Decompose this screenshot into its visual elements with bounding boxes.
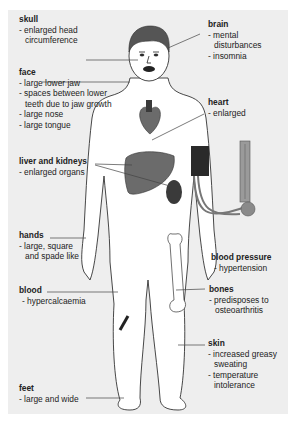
label-skin-title: skin <box>208 338 277 349</box>
label-heart-title: heart <box>208 97 246 108</box>
label-hands-item: and spade like <box>19 251 79 262</box>
kidney-organ <box>166 180 182 204</box>
label-bones: bones - predisposes to osteoarthritis <box>209 284 269 316</box>
label-hands-title: hands <box>19 230 79 241</box>
label-skin-item: - increased greasy <box>208 349 277 360</box>
label-blood-pressure-item: - hypertension <box>211 263 272 274</box>
label-face-item: - large tongue <box>19 120 112 131</box>
label-feet-item: - large and wide <box>19 394 79 405</box>
label-skin: skin - increased greasy sweating - tempe… <box>208 338 277 391</box>
label-skin-item: sweating <box>208 359 277 370</box>
label-face-item: - spaces between lower <box>19 88 112 99</box>
label-brain-item: - insomnia <box>208 51 262 62</box>
label-feet-title: feet <box>19 383 79 394</box>
label-face-item: - large nose <box>19 109 112 120</box>
label-liver-kidneys-item: - enlarged organs <box>19 167 87 178</box>
label-skin-item: - temperature <box>208 370 277 381</box>
label-brain-item: - mental <box>208 30 262 41</box>
label-skull-item: - enlarged head <box>19 25 78 36</box>
bp-bulb <box>241 202 255 216</box>
label-face: face - large lower jaw - spaces between … <box>19 67 112 131</box>
label-bones-item: osteoarthritis <box>209 305 269 316</box>
label-hands-item: - large, square <box>19 241 79 252</box>
label-brain: brain - mental disturbances - insomnia <box>208 19 262 61</box>
label-skull-item: circumference <box>19 35 78 46</box>
label-face-item: teeth due to jaw growth <box>19 99 112 110</box>
label-liver-kidneys: liver and kidneys - enlarged organs <box>19 156 87 177</box>
label-feet: feet - large and wide <box>19 383 79 404</box>
label-liver-kidneys-title: liver and kidneys <box>19 156 87 167</box>
label-skin-item: intolerance <box>208 380 277 391</box>
label-hands: hands - large, square and spade like <box>19 230 79 262</box>
label-skull-title: skull <box>19 14 78 25</box>
label-bones-item: - predisposes to <box>209 295 269 306</box>
label-face-item: - large lower jaw <box>19 78 112 89</box>
label-blood-item: - hypercalcaemia <box>19 296 86 307</box>
label-bones-title: bones <box>209 284 269 295</box>
label-face-title: face <box>19 67 112 78</box>
label-blood-pressure-title: blood pressure <box>211 252 272 263</box>
label-blood-pressure: blood pressure - hypertension <box>211 252 272 273</box>
label-blood: blood - hypercalcaemia <box>19 285 86 306</box>
label-brain-item: disturbances <box>208 40 262 51</box>
mouth <box>143 66 155 72</box>
label-heart-item: - enlarged <box>208 108 246 119</box>
bp-cuff <box>191 146 209 176</box>
label-skull: skull - enlarged head circumference <box>19 14 78 46</box>
label-heart: heart - enlarged <box>208 97 246 118</box>
label-blood-title: blood <box>19 285 86 296</box>
label-brain-title: brain <box>208 19 262 30</box>
